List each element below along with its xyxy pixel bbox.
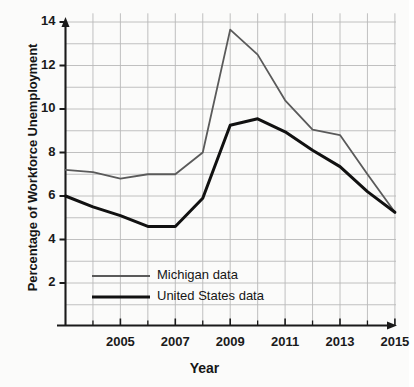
x-tick-label: 2005 xyxy=(98,334,142,349)
x-tick-label: 2009 xyxy=(208,334,252,349)
x-axis-title: Year xyxy=(0,360,409,376)
y-tick-label: 4 xyxy=(30,231,56,246)
y-tick-label: 14 xyxy=(30,13,56,28)
y-tick-label: 12 xyxy=(30,57,56,72)
x-tick-label: 2013 xyxy=(318,334,362,349)
y-tick-label: 2 xyxy=(30,274,56,289)
x-tick-label: 2011 xyxy=(263,334,307,349)
legend-label-michigan: Michigan data xyxy=(157,267,238,282)
legend-swatches xyxy=(92,276,150,297)
legend-label-united-states: United States data xyxy=(157,288,264,303)
y-tick-label: 8 xyxy=(30,144,56,159)
y-tick-label: 10 xyxy=(30,100,56,115)
y-tick-label: 6 xyxy=(30,187,56,202)
x-tick-label: 2007 xyxy=(153,334,197,349)
x-tick-label: 2015 xyxy=(373,334,414,349)
